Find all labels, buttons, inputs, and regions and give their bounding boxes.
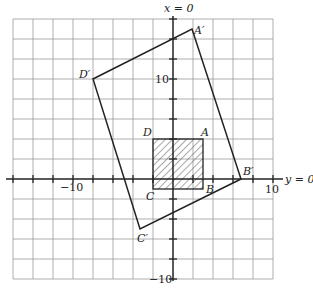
tick-label-x-pos: 10 <box>265 183 279 196</box>
label-B: B <box>205 183 214 196</box>
horizontal-axis-label: y = 0 <box>284 173 313 186</box>
tick-label-y-neg: −10 <box>149 273 172 286</box>
label-A: A <box>200 126 209 139</box>
label-C: C <box>146 190 155 203</box>
label-B-prime: B′ <box>242 165 254 178</box>
transformation-diagram: x = 0 y = 0 −10 10 10 −10 D A B C A′ B′ … <box>0 0 313 291</box>
tick-label-x-neg: −10 <box>60 181 83 194</box>
label-C-prime: C′ <box>137 232 148 245</box>
label-D-prime: D′ <box>78 68 91 81</box>
original-square <box>153 139 203 189</box>
label-D: D <box>142 126 152 139</box>
vertical-axis-label: x = 0 <box>164 2 193 15</box>
tick-label-y-pos: 10 <box>155 73 169 86</box>
label-A-prime: A′ <box>193 24 205 37</box>
